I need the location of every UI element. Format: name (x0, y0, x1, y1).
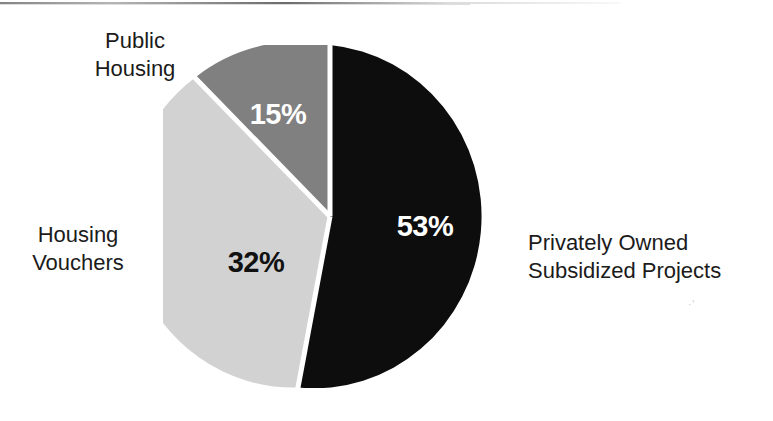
category-label-public-housing-line2: Housing (55, 55, 215, 83)
scan-artifact-line-secondary (0, 4, 470, 5)
category-label-public-housing: Public Housing (55, 27, 215, 83)
category-label-privately-owned-line1: Privately Owned (528, 229, 721, 257)
slice-value-housing-vouchers: 32% (216, 248, 296, 277)
category-label-public-housing-line1: Public (55, 27, 215, 55)
category-label-privately-owned-line2: Subsidized Projects (528, 257, 721, 285)
pie-chart-figure: ·' 53% 32% 15% Public Housing (0, 0, 773, 421)
slice-value-privately-owned: 53% (385, 212, 465, 241)
category-label-privately-owned: Privately Owned Subsidized Projects (528, 229, 721, 285)
category-label-housing-vouchers-line1: Housing (8, 221, 148, 249)
category-label-housing-vouchers-line2: Vouchers (8, 249, 148, 277)
category-label-housing-vouchers: Housing Vouchers (8, 221, 148, 277)
slice-value-public-housing: 15% (238, 100, 318, 129)
scan-artifact-speck: ·' (688, 300, 702, 310)
